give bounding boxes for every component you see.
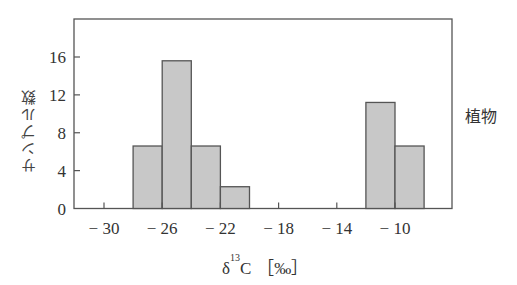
histogram-bar <box>220 187 249 209</box>
y-tick-label: 8 <box>58 124 67 143</box>
y-ticks: 0481216 <box>49 48 80 219</box>
x-axis-title-unit: ［‰］ <box>257 259 308 278</box>
x-tick-label: − 22 <box>205 219 236 238</box>
x-tick-label: − 26 <box>147 219 178 238</box>
y-tick-label: 4 <box>58 162 67 181</box>
histogram-bar <box>162 61 191 209</box>
x-axis-title: δ13C［‰］ <box>222 254 308 279</box>
x-axis-title-superscript: 13 <box>230 252 240 263</box>
histogram-bar <box>133 146 162 208</box>
x-tick-label: − 30 <box>89 219 120 238</box>
histogram-chart: − 30− 26− 22− 18− 14− 10 0481216 <box>0 0 517 285</box>
y-tick-label: 0 <box>58 200 67 219</box>
x-axis-title-element: C <box>240 259 251 278</box>
y-axis-title: サンプル数 <box>18 88 38 173</box>
y-tick-label: 12 <box>49 86 66 105</box>
x-axis-title-delta: δ <box>222 259 230 278</box>
x-tick-label: − 14 <box>321 219 352 238</box>
histogram-bar <box>191 146 220 208</box>
y-tick-label: 16 <box>49 48 66 67</box>
category-annotation: 植物 <box>465 103 497 127</box>
histogram-bar <box>395 146 424 208</box>
histogram-bar <box>366 102 395 208</box>
x-tick-label: − 18 <box>263 219 294 238</box>
x-tick-label: − 10 <box>380 219 411 238</box>
bars <box>133 61 424 209</box>
